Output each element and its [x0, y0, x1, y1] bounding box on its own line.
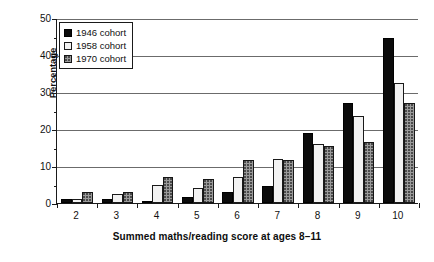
bar-1958-cohort-6	[233, 177, 244, 203]
bar-1958-cohort-8	[313, 144, 324, 203]
bar-1946-cohort-2	[61, 199, 72, 203]
y-tick-label-10: 10	[25, 162, 51, 172]
bar-1970-cohort-10	[404, 103, 415, 203]
y-tick-minor-35	[54, 75, 57, 76]
bar-1946-cohort-7	[262, 186, 273, 203]
bar-1970-cohort-5	[203, 179, 214, 203]
legend-label: 1970 cohort	[76, 54, 126, 64]
bar-1958-cohort-7	[273, 159, 284, 203]
y-tick-label-30: 30	[25, 88, 51, 98]
x-tick-8	[298, 203, 299, 208]
bar-1946-cohort-10	[383, 38, 394, 203]
x-tick-label-6: 6	[217, 210, 257, 221]
bar-1958-cohort-5	[193, 188, 204, 203]
x-tick-9	[339, 203, 340, 208]
legend-item-1970-cohort: 1970 cohort	[64, 52, 126, 65]
legend-swatch-icon-1	[64, 42, 72, 50]
legend-swatch-icon-2	[64, 55, 72, 63]
bar-1970-cohort-7	[283, 160, 294, 203]
x-tick-3	[97, 203, 98, 208]
chart-legend: 1946 cohort1958 cohort1970 cohort	[59, 22, 133, 69]
x-tick-label-9: 9	[338, 210, 378, 221]
y-tick-minor-5	[54, 186, 57, 187]
bar-group-7	[262, 19, 294, 203]
bar-group-8	[303, 19, 335, 203]
bar-1970-cohort-4	[163, 177, 174, 203]
legend-item-1946-cohort: 1946 cohort	[64, 26, 126, 39]
bar-1970-cohort-3	[123, 192, 134, 203]
x-tick-label-10: 10	[378, 210, 418, 221]
legend-label: 1958 cohort	[76, 41, 126, 51]
x-tick-7	[258, 203, 259, 208]
legend-swatch-icon-0	[64, 29, 72, 37]
y-tick-label-40: 40	[25, 51, 51, 61]
x-tick-label-2: 2	[56, 210, 96, 221]
y-tick-label-0: 0	[25, 199, 51, 209]
bar-1946-cohort-4	[142, 201, 153, 203]
bar-1946-cohort-3	[102, 199, 113, 203]
bar-1958-cohort-4	[152, 185, 163, 204]
bar-chart: Percentage 01020304050 2345678910 Summed…	[0, 0, 434, 262]
y-tick-label-20: 20	[25, 125, 51, 135]
x-tick-label-4: 4	[137, 210, 177, 221]
bar-1946-cohort-8	[303, 133, 314, 203]
bar-1958-cohort-9	[353, 116, 364, 203]
x-tick-6	[218, 203, 219, 208]
x-axis-title: Summed maths/reading score at ages 8–11	[0, 231, 434, 242]
y-tick-label-50: 50	[25, 14, 51, 24]
bar-group-9	[343, 19, 375, 203]
bar-group-10	[383, 19, 415, 203]
legend-item-1958-cohort: 1958 cohort	[64, 39, 126, 52]
x-tick-2	[57, 203, 58, 208]
y-tick-major-40	[52, 56, 57, 57]
x-tick-label-8: 8	[297, 210, 337, 221]
x-tick-label-7: 7	[257, 210, 297, 221]
bar-group-6	[222, 19, 254, 203]
y-tick-major-50	[52, 19, 57, 20]
bar-group-4	[142, 19, 174, 203]
y-tick-minor-25	[54, 112, 57, 113]
x-tick-5	[178, 203, 179, 208]
bar-1946-cohort-5	[182, 197, 193, 203]
x-tick-4	[137, 203, 138, 208]
bar-1970-cohort-6	[243, 160, 254, 203]
x-tick-end	[419, 203, 420, 208]
y-tick-major-10	[52, 167, 57, 168]
bar-1970-cohort-8	[324, 146, 335, 203]
bar-1970-cohort-9	[364, 142, 375, 203]
bar-1946-cohort-9	[343, 103, 354, 203]
y-tick-major-30	[52, 93, 57, 94]
x-tick-10	[379, 203, 380, 208]
y-tick-major-20	[52, 130, 57, 131]
bar-1970-cohort-2	[82, 192, 93, 203]
y-tick-minor-15	[54, 149, 57, 150]
bar-1946-cohort-6	[222, 192, 233, 203]
bar-1958-cohort-3	[112, 194, 123, 203]
bar-group-5	[182, 19, 214, 203]
bar-1958-cohort-2	[72, 199, 83, 203]
y-tick-minor-45	[54, 38, 57, 39]
legend-label: 1946 cohort	[76, 28, 126, 38]
x-tick-label-3: 3	[96, 210, 136, 221]
bar-1958-cohort-10	[394, 83, 405, 203]
x-tick-label-5: 5	[177, 210, 217, 221]
